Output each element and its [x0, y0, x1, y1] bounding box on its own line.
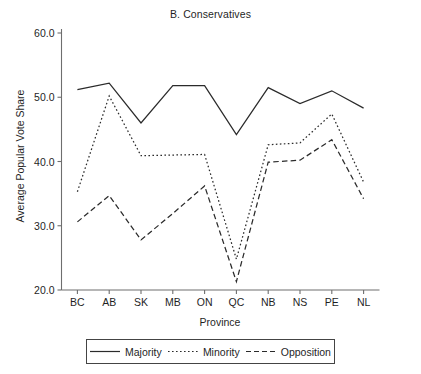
x-tick-label: NB	[261, 296, 276, 308]
legend-label-minority: Minority	[203, 346, 240, 358]
legend-swatch-opposition	[246, 347, 276, 356]
y-tick-label: 60.0	[34, 27, 55, 39]
x-tick-label: MB	[165, 296, 181, 308]
legend-swatch-minority	[168, 347, 198, 356]
chart-figure: B. Conservatives Average Popular Vote Sh…	[0, 0, 421, 374]
y-tick-label: 50.0	[34, 91, 55, 103]
legend-item-majority: Majority	[90, 346, 162, 358]
legend-swatch-majority	[90, 347, 120, 356]
y-tick-label: 20.0	[34, 284, 55, 296]
x-tick-label: AB	[102, 296, 116, 308]
legend-label-opposition: Opposition	[281, 346, 331, 358]
x-tick-label: BC	[70, 296, 85, 308]
x-tick-label: ON	[197, 296, 213, 308]
chart-legend: Majority Minority Opposition	[86, 339, 335, 364]
y-tick-label: 30.0	[34, 220, 55, 232]
series-line-opposition	[77, 140, 363, 282]
x-axis-label: Province	[60, 316, 380, 328]
legend-label-majority: Majority	[125, 346, 162, 358]
y-tick-label: 40.0	[34, 156, 55, 168]
x-tick-label: QC	[229, 296, 245, 308]
series-line-majority	[77, 83, 363, 134]
x-tick-label: NS	[293, 296, 308, 308]
x-tick-label: SK	[134, 296, 148, 308]
x-tick-label: PE	[325, 296, 339, 308]
legend-item-minority: Minority	[168, 346, 240, 358]
legend-item-opposition: Opposition	[246, 346, 331, 358]
x-tick-label: NL	[357, 296, 371, 308]
